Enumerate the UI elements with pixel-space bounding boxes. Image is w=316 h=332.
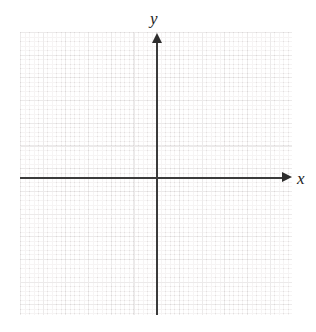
- x-axis-line: [20, 177, 288, 179]
- coordinate-grid-figure: x y: [0, 0, 316, 332]
- y-axis-label: y: [150, 10, 158, 27]
- arrow-up-icon: [152, 33, 162, 43]
- arrow-right-icon: [282, 172, 292, 182]
- y-axis-line: [156, 42, 158, 315]
- x-axis-label: x: [297, 170, 305, 187]
